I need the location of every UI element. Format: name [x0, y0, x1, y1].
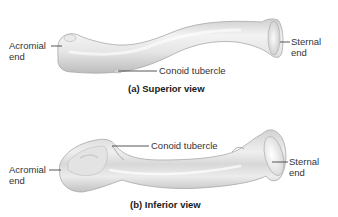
label-line-2: end — [9, 52, 46, 63]
label-line-1: Sternal — [289, 157, 319, 168]
clavicle-figure: Acromial end Conoid tubercle Sternal end… — [0, 0, 338, 217]
label-line-1: Sternal — [291, 37, 321, 48]
label-conoid-tubercle-superior: Conoid tubercle — [159, 66, 226, 77]
label-line-2: end — [9, 176, 46, 187]
label-acromial-end-superior: Acromial end — [9, 41, 46, 62]
bone-illustrations — [0, 0, 338, 217]
label-sternal-end-inferior: Sternal end — [289, 157, 319, 178]
label-line-2: end — [289, 168, 319, 179]
label-line-1: Acromial — [9, 165, 46, 176]
caption-superior-view: (a) Superior view — [128, 83, 205, 94]
label-sternal-end-superior: Sternal end — [291, 37, 321, 58]
caption-inferior-view: (b) Inferior view — [130, 199, 201, 210]
label-line-2: end — [291, 48, 321, 59]
label-line-1: Acromial — [9, 41, 46, 52]
label-conoid-tubercle-inferior: Conoid tubercle — [151, 141, 218, 152]
label-acromial-end-inferior: Acromial end — [9, 165, 46, 186]
